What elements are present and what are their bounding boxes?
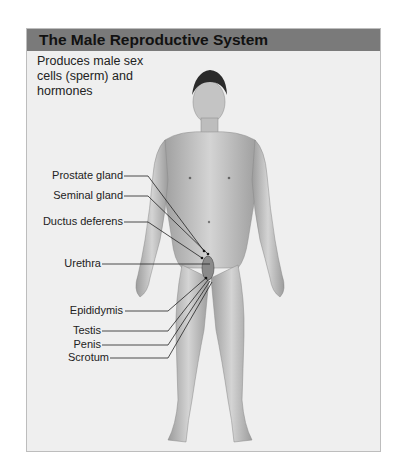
label-testis: Testis xyxy=(73,324,101,336)
body-silhouette xyxy=(136,70,284,442)
label-prostate-gland: Prostate gland xyxy=(52,169,123,181)
male-body-illustration xyxy=(0,0,405,475)
label-epididymis: Epididymis xyxy=(70,304,123,316)
label-scrotum: Scrotum xyxy=(68,351,109,363)
label-seminal-gland: Seminal gland xyxy=(53,189,123,201)
label-penis: Penis xyxy=(73,338,101,350)
genital-region xyxy=(202,256,214,280)
label-ductus-deferens: Ductus deferens xyxy=(43,215,123,227)
label-urethra: Urethra xyxy=(64,257,101,269)
